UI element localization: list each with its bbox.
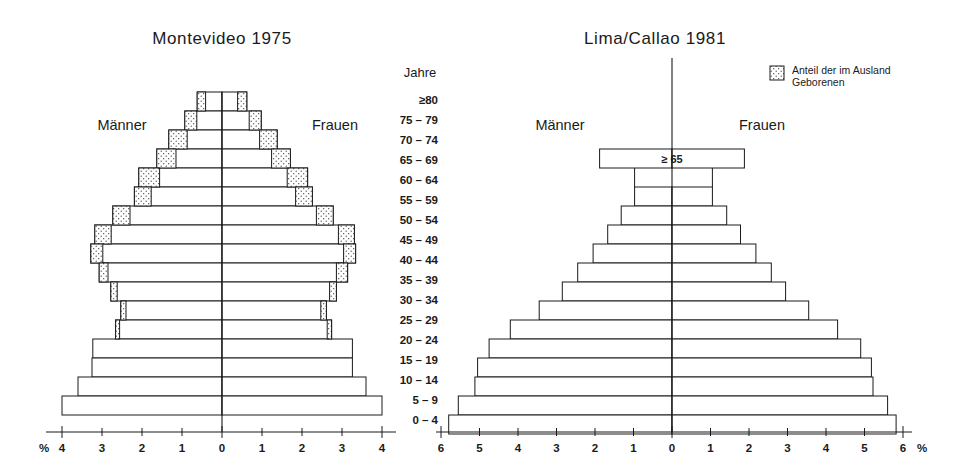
left-male-label: Männer <box>97 117 146 133</box>
age-label-column: ≥80 75 – 79 70 – 74 65 – 69 60 – 64 55 –… <box>400 94 439 426</box>
right-tick-label-6R: 6 <box>900 442 906 454</box>
age-label-25-29: 25 – 29 <box>400 314 438 326</box>
age-label-65-69: 65 – 69 <box>400 154 438 166</box>
right-chart-title: Lima/Callao 1981 <box>584 29 726 48</box>
age-label-35-39: 35 – 39 <box>400 274 438 286</box>
age-axis-header: Jahre <box>404 65 437 80</box>
right-tick-label-6L: 6 <box>438 442 444 454</box>
left-tick-label-3R: 3 <box>339 442 345 454</box>
left-tick-label-2L: 2 <box>139 442 145 454</box>
right-tick-label-1L: 1 <box>630 442 637 454</box>
right-tick-label-4L: 4 <box>515 442 522 454</box>
left-female-label: Frauen <box>312 117 358 133</box>
age-label-60-64: 60 – 64 <box>400 174 439 186</box>
age-label-20-24: 20 – 24 <box>400 334 439 346</box>
left-tick-label-4R: 4 <box>379 442 386 454</box>
right-tick-label-4R: 4 <box>823 442 830 454</box>
right-tick-label-5R: 5 <box>861 442 868 454</box>
right-tick-label-3L: 3 <box>553 442 559 454</box>
left-tick-label-3L: 3 <box>99 442 105 454</box>
right-tick-label-3R: 3 <box>784 442 790 454</box>
age-label-70-74: 70 – 74 <box>400 134 439 146</box>
right-tick-label-0: 0 <box>669 442 675 454</box>
left-chart-title: Montevideo 1975 <box>152 29 291 48</box>
left-bars-female <box>222 92 382 415</box>
right-bars-male <box>449 149 672 434</box>
right-bars-female <box>672 149 896 434</box>
right-axis-tick-labels: 6 5 4 3 2 1 0 1 2 3 4 5 6 <box>438 442 906 454</box>
pyramid-svg-canvas: Montevideo 1975 Lima/Callao 1981 Anteil … <box>0 0 970 469</box>
left-tick-label-4L: 4 <box>59 442 66 454</box>
right-female-label: Frauen <box>739 117 785 133</box>
age-label-15-19: 15 – 19 <box>400 354 438 366</box>
left-tick-label-1L: 1 <box>179 442 186 454</box>
legend-label-line1: Anteil der im Ausland <box>792 64 891 76</box>
age-label-40-44: 40 – 44 <box>400 254 439 266</box>
right-tick-label-1R: 1 <box>707 442 714 454</box>
right-axis-percent-symbol: % <box>917 442 927 454</box>
left-axis-percent-symbol: % <box>39 442 49 454</box>
age-label-30-34: 30 – 34 <box>400 294 439 306</box>
legend: Anteil der im Ausland Geborenen <box>770 64 891 88</box>
right-male-label: Männer <box>535 117 584 133</box>
age-label-45-49: 45 – 49 <box>400 234 438 246</box>
age-label-50-54: 50 – 54 <box>400 214 439 226</box>
right-tick-label-2R: 2 <box>746 442 752 454</box>
age-label-10-14: 10 – 14 <box>400 374 439 386</box>
age-label-5-9: 5 – 9 <box>412 394 438 406</box>
age-label-75-79: 75 – 79 <box>400 114 438 126</box>
age-label-80plus: ≥80 <box>419 94 438 106</box>
left-axis-tick-labels: 4 3 2 1 0 1 2 3 4 <box>59 442 386 454</box>
right-pyramid: Männer Frauen <box>436 58 927 454</box>
left-tick-label-1R: 1 <box>259 442 266 454</box>
population-pyramid-figure: Montevideo 1975 Lima/Callao 1981 Anteil … <box>0 0 970 469</box>
age-label-0-4: 0 – 4 <box>412 414 438 426</box>
stipple-swatch <box>770 66 784 80</box>
right-65plus-connector-stems <box>635 168 713 187</box>
right-bar-female-65plus <box>672 149 744 168</box>
left-bars-male <box>62 92 222 415</box>
left-tick-label-2R: 2 <box>299 442 305 454</box>
left-pyramid: Männer Frauen <box>39 92 396 454</box>
legend-label-line2: Geborenen <box>792 76 845 88</box>
right-tick-label-2L: 2 <box>592 442 598 454</box>
left-tick-label-0: 0 <box>219 442 225 454</box>
age-label-55-59: 55 – 59 <box>400 194 438 206</box>
right-tick-label-5L: 5 <box>476 442 483 454</box>
